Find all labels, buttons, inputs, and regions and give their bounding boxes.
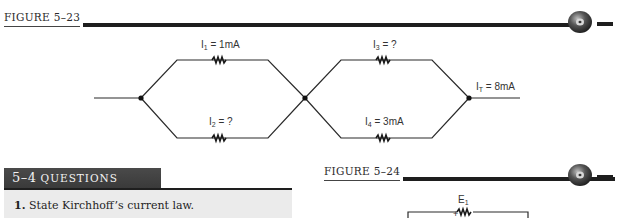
figure-5-24-circuit [0,0,617,218]
source-label-e1: E1 [458,195,469,206]
polarity-plus: + [453,210,458,218]
resistor-e1 [457,209,471,215]
